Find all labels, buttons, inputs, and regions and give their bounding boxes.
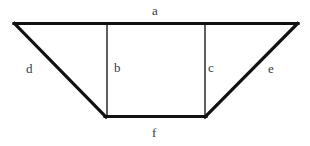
geometry-figure: a b c d e f xyxy=(0,0,310,146)
label-f: f xyxy=(152,126,156,139)
label-a: a xyxy=(152,4,158,17)
label-e: e xyxy=(268,62,274,75)
segment-e-line xyxy=(205,24,298,118)
label-d: d xyxy=(26,62,33,75)
label-c: c xyxy=(208,61,214,74)
label-b: b xyxy=(114,61,121,74)
